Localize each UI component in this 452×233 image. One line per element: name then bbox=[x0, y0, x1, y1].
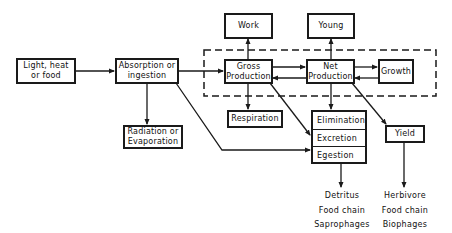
node-absorption-ingestion: Absorption or ingestion bbox=[115, 58, 179, 84]
node-yield: Yield bbox=[385, 125, 425, 143]
node-light-heat-food: Light, heat or food bbox=[16, 58, 76, 84]
node-young: Young bbox=[307, 13, 355, 39]
loss-stack: Elimination Excretion Egestion bbox=[311, 110, 367, 164]
node-growth: Growth bbox=[378, 59, 414, 84]
node-egestion: Egestion bbox=[313, 146, 365, 163]
energy-flow-diagram: Light, heat or food Absorption or ingest… bbox=[0, 0, 452, 233]
node-excretion: Excretion bbox=[313, 129, 365, 146]
node-elimination: Elimination bbox=[313, 112, 365, 129]
output-herbivore-food-chain: Herbivore Food chain Biophages bbox=[369, 189, 441, 233]
node-radiation-evaporation: Radiation or Evaporation bbox=[123, 125, 183, 149]
node-work: Work bbox=[224, 13, 273, 39]
node-gross-production: Gross Production bbox=[224, 59, 273, 84]
output-detritus-food-chain: Detritus Food chain Saprophages bbox=[306, 189, 378, 233]
node-respiration: Respiration bbox=[227, 110, 283, 128]
node-net-production: Net Production bbox=[306, 59, 355, 84]
